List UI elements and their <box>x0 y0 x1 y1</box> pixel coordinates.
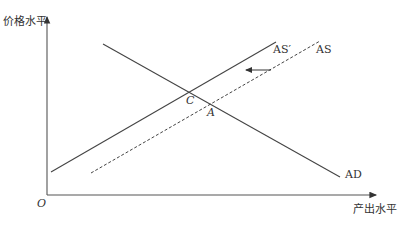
as-label: AS <box>316 43 331 56</box>
y-axis-label: 价格水平 <box>3 12 47 28</box>
point-a-label: A <box>207 106 215 119</box>
ad-curve <box>103 44 340 177</box>
origin-label: O <box>37 197 46 210</box>
as-ad-diagram <box>0 0 410 225</box>
as-prime-label: AS′ <box>273 43 291 56</box>
x-axis-label: 产出水平 <box>353 200 397 216</box>
as-prime-curve <box>51 42 276 172</box>
as-curve <box>91 41 320 173</box>
point-c-label: C <box>186 94 194 107</box>
ad-label: AD <box>345 168 362 181</box>
